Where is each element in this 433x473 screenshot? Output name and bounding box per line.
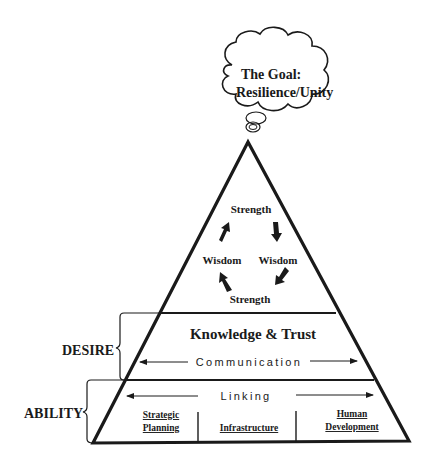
human-development-line2: Development <box>325 422 379 432</box>
cycle-wisdom-left: Wisdom <box>203 254 242 266</box>
desire-bracket: DESIRE <box>62 313 161 380</box>
pyramid-diagram: The Goal: Resilience/Unity Strength Wisd… <box>0 0 433 473</box>
arrow-up-icon <box>219 222 230 242</box>
desire-label: DESIRE <box>62 343 114 358</box>
arrow-up-left-icon <box>219 272 232 292</box>
communication-label: Communication <box>196 356 302 368</box>
goal-cloud: The Goal: Resilience/Unity <box>222 27 333 132</box>
middle-tier: Knowledge & Trust Communication <box>140 326 357 368</box>
cycle-strength-bottom: Strength <box>230 293 271 305</box>
linking-label: Linking <box>221 390 272 402</box>
cycle-strength-top: Strength <box>231 203 272 215</box>
infrastructure-label: Infrastructure <box>220 423 278 433</box>
strength-wisdom-cycle: Strength Wisdom Wisdom Strength <box>203 203 298 305</box>
human-development-line1: Human <box>337 409 368 419</box>
cycle-wisdom-right: Wisdom <box>259 254 298 266</box>
bottom-tier: Linking Strategic Planning Infrastructur… <box>127 390 379 443</box>
goal-label-line1: The Goal: <box>241 67 301 82</box>
brace-icon <box>83 380 124 443</box>
arrow-down-left-icon <box>275 267 289 285</box>
strategic-planning-line2: Planning <box>143 423 180 433</box>
knowledge-trust-label: Knowledge & Trust <box>190 326 316 342</box>
arrow-down-icon <box>271 222 282 242</box>
strategic-planning-line1: Strategic <box>143 410 179 420</box>
ability-label: ABILITY <box>24 406 83 421</box>
goal-label-line2: Resilience/Unity <box>236 85 333 100</box>
